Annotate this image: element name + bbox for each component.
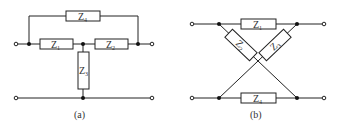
terminal <box>150 42 154 46</box>
caption-a: (a) <box>74 109 85 121</box>
terminal <box>14 42 18 46</box>
diagram-b: Z1 Z4 Z2 Z3 (b) <box>190 19 326 122</box>
terminal <box>322 96 326 100</box>
caption-b: (b) <box>250 109 262 121</box>
junction-node <box>81 42 85 46</box>
impedance-z3-b: Z3 <box>259 29 292 61</box>
junction-node <box>27 42 31 46</box>
diagram-a: Z4 Z1 Z2 Z3 (a) <box>14 11 154 122</box>
junction-node <box>136 42 140 46</box>
terminal <box>150 96 154 100</box>
junction-node <box>295 22 299 26</box>
junction-node <box>217 22 221 26</box>
junction-node <box>81 96 85 100</box>
terminal <box>14 96 18 100</box>
circuit-figure: Z4 Z1 Z2 Z3 (a) Z1 Z4 <box>0 0 340 129</box>
terminal <box>190 96 194 100</box>
terminal <box>322 22 326 26</box>
impedance-z2-b: Z2 <box>224 29 257 61</box>
terminal <box>190 22 194 26</box>
junction-node <box>217 96 221 100</box>
junction-node <box>295 96 299 100</box>
